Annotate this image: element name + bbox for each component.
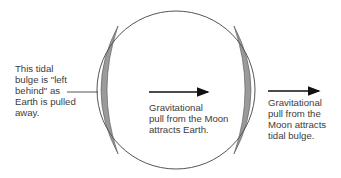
label-line: Moon attracts: [268, 119, 341, 130]
label-line: This tidal: [15, 63, 95, 74]
label-line: pull from the Moon: [149, 113, 249, 124]
label-line: Earth is pulled: [15, 96, 95, 107]
earth-pull-label: Gravitational pull from the Moon attract…: [149, 102, 249, 135]
earth-circle: [97, 11, 255, 169]
label-line: Gravitational: [268, 97, 341, 108]
label-line: Gravitational: [149, 102, 249, 113]
label-line: bulge is "left: [15, 74, 95, 85]
label-line: behind" as: [15, 85, 95, 96]
label-line: tidal bulge.: [268, 130, 341, 141]
near-bulge-label: Gravitational pull from the Moon attract…: [268, 97, 341, 141]
label-line: attracts Earth.: [149, 124, 249, 135]
far-bulge-label: This tidal bulge is "left behind" as Ear…: [15, 63, 95, 118]
far-tidal-bulge: [101, 26, 118, 154]
label-line: pull from the: [268, 108, 341, 119]
label-line: away.: [15, 107, 95, 118]
